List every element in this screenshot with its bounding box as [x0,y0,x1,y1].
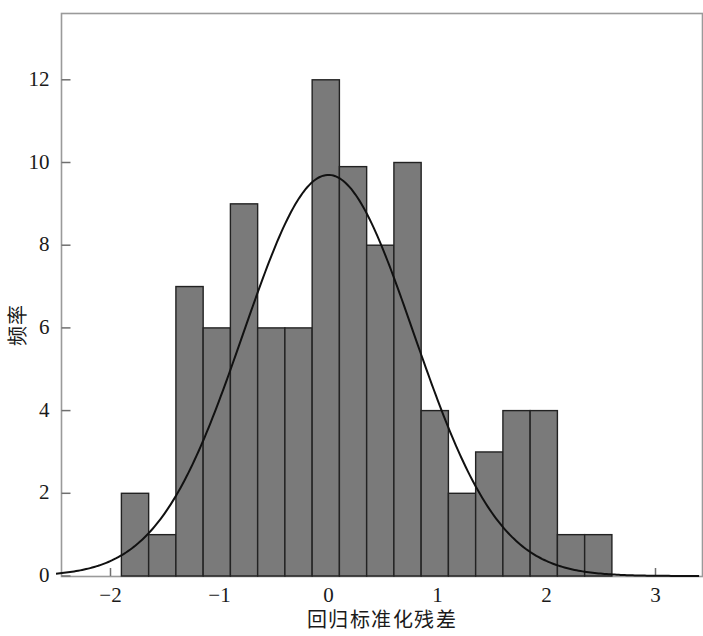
histogram-bar [230,204,257,576]
y-axis-ticks [62,80,71,576]
histogram-chart: 024681012 −2−10123 频率 回归标准化残差 [0,0,703,636]
x-tick-label: −1 [190,585,250,606]
histogram-bar [530,411,557,576]
y-tick-label: 4 [10,400,50,421]
histogram-bar [203,328,230,576]
y-tick-label: 8 [10,234,50,255]
y-tick-label: 10 [10,152,50,173]
y-tick-label: 6 [10,317,50,338]
plot-canvas [0,0,703,636]
x-tick-label: 2 [517,585,577,606]
x-tick-label: 3 [626,585,686,606]
x-axis-title: 回归标准化残差 [61,604,703,633]
histogram-bar [258,328,285,576]
histogram-bar [476,452,503,576]
y-tick-label: 0 [10,565,50,586]
histogram-bar [121,493,148,576]
histogram-bar [176,287,203,576]
histogram-bar [149,535,176,576]
histogram-bar [285,328,312,576]
histogram-bar [448,493,475,576]
x-tick-label: 0 [299,585,359,606]
histogram-bar [339,167,366,576]
histogram-bars [121,80,612,576]
histogram-bar [503,411,530,576]
histogram-bar [421,411,448,576]
x-tick-label: −2 [81,585,141,606]
histogram-bar [585,535,612,576]
y-tick-label: 2 [10,482,50,503]
x-tick-label: 1 [408,585,468,606]
y-tick-label: 12 [10,69,50,90]
histogram-bar [394,163,421,577]
histogram-bar [312,80,339,576]
histogram-bar [367,245,394,576]
